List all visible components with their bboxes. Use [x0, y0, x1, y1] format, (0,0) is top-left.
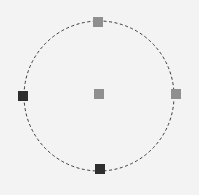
node-right: [171, 89, 181, 99]
node-group: [18, 17, 181, 174]
node-left: [18, 91, 28, 101]
node-center: [94, 89, 104, 99]
circle-diagram: [0, 0, 199, 195]
node-top: [93, 17, 103, 27]
node-bottom: [95, 164, 105, 174]
